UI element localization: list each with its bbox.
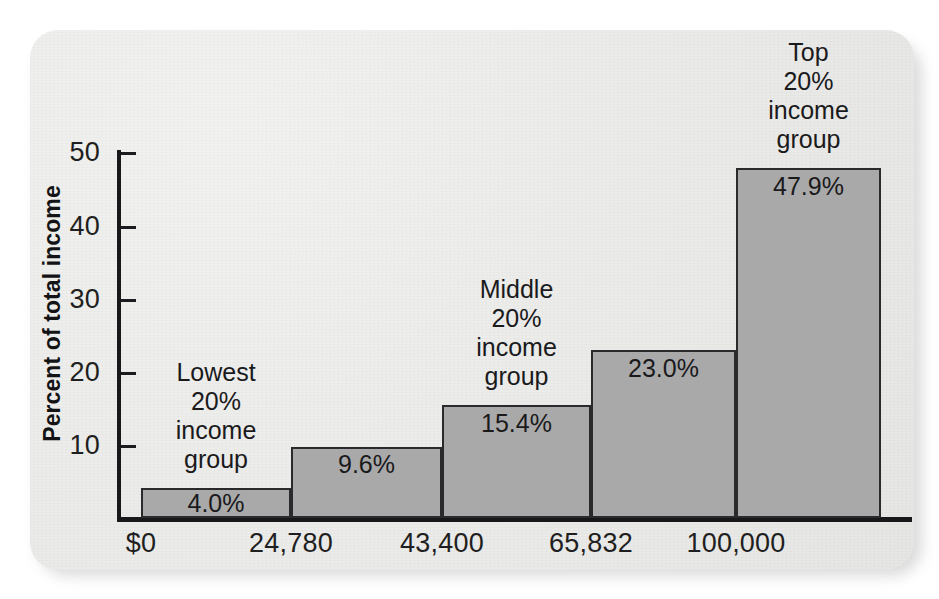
y-tick-50	[121, 152, 136, 155]
y-tick-20	[121, 372, 136, 375]
y-tick-label-10: 10	[44, 430, 100, 461]
x-tick-label-65832: 65,832	[516, 528, 666, 559]
bar-value-lowest-20: 4.0%	[141, 489, 291, 518]
annotation-top-20: Top 20% income group	[736, 38, 881, 154]
y-tick-40	[121, 226, 136, 229]
bar-value-middle-20: 15.4%	[442, 409, 591, 438]
y-tick-label-30: 30	[44, 284, 100, 315]
annotation-middle-20: Middle 20% income group	[442, 275, 591, 391]
bar-value-top-20: 47.9%	[736, 172, 881, 201]
x-tick-label-43400: 43,400	[367, 528, 517, 559]
y-tick-label-40: 40	[44, 211, 100, 242]
x-tick-label-24780: 24,780	[216, 528, 366, 559]
y-tick-10	[121, 445, 136, 448]
bar-chart-plot: Percent of total income 50 40 30 20 10 4…	[0, 0, 939, 599]
bar-value-fourth-20: 23.0%	[591, 354, 736, 383]
x-tick-label-0: $0	[66, 528, 216, 559]
y-tick-label-50: 50	[44, 137, 100, 168]
y-tick-label-20: 20	[44, 357, 100, 388]
chart-screenshot: Percent of total income 50 40 30 20 10 4…	[0, 0, 939, 599]
bar-top-20	[736, 168, 881, 518]
y-axis-line	[117, 150, 121, 522]
x-tick-label-100000: 100,000	[661, 528, 811, 559]
annotation-lowest-20: Lowest 20% income group	[141, 358, 291, 474]
y-tick-30	[121, 299, 136, 302]
bar-value-second-20: 9.6%	[291, 450, 442, 479]
